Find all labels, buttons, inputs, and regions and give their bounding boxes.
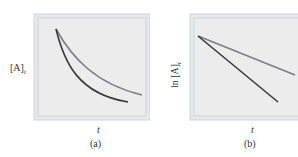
y-label-sub-a: t <box>24 68 26 76</box>
y-axis-label-a: [A]t <box>10 62 26 76</box>
y-axis-label-b: ln [A]t <box>169 53 183 97</box>
y-label-main-a: [A] <box>10 62 24 73</box>
x-axis-label-a: t <box>97 124 100 135</box>
x-axis-label-b: t <box>251 124 254 135</box>
caption-b: (b) <box>244 138 256 149</box>
y-label-main-b: ln [A] <box>169 64 180 88</box>
caption-a: (a) <box>90 138 101 149</box>
y-label-sub-b: t <box>175 62 183 64</box>
plot-a <box>0 0 150 157</box>
panel-a: [A]t t (a) <box>0 0 150 157</box>
panel-b: ln [A]t t (b) <box>150 0 298 157</box>
